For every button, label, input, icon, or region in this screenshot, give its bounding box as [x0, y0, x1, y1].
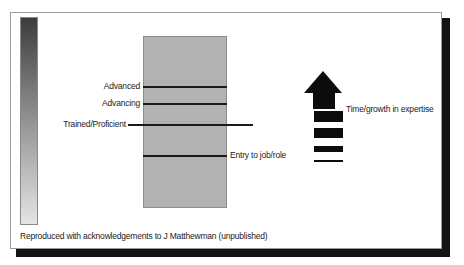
caption: Reproduced with acknowledgements to J Ma… — [20, 231, 267, 241]
arrow-label: Time/growth in expertise — [346, 104, 433, 114]
trained-proficient-line — [128, 124, 253, 126]
trained-proficient-label: Trained/Proficient — [40, 119, 126, 129]
arrow-bar-2 — [314, 128, 343, 138]
expertise-level-box — [143, 36, 227, 208]
advancing-label: Advancing — [70, 98, 140, 108]
advanced-line — [143, 86, 227, 88]
arrow-bar-3 — [314, 146, 343, 152]
advancing-line — [143, 103, 227, 105]
entry-label: Entry to job/role — [230, 150, 286, 160]
arrow-up-icon — [304, 71, 344, 109]
arrow-bar-1 — [314, 111, 343, 122]
arrow-bar-4 — [314, 160, 343, 162]
entry-line — [143, 155, 227, 157]
expertise-gradient-bar — [20, 17, 38, 225]
advanced-label: Advanced — [70, 81, 140, 91]
